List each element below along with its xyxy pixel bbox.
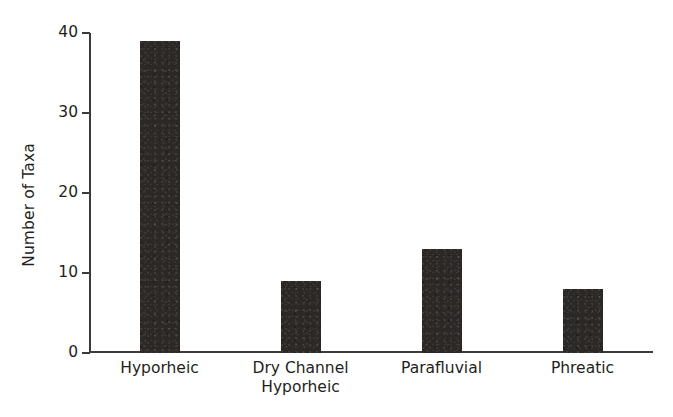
y-axis-tick-mark xyxy=(82,352,90,354)
bar[interactable] xyxy=(563,289,603,353)
y-axis-tick-mark xyxy=(82,272,90,274)
plot-area xyxy=(89,33,653,353)
x-axis-category-label: Hyporheic xyxy=(89,359,230,378)
y-axis-tick-label-group: 403020100 xyxy=(0,0,78,417)
y-axis-tick-mark xyxy=(82,112,90,114)
y-axis-tick-label: 0 xyxy=(4,344,78,360)
x-axis-category-label: Parafluvial xyxy=(371,359,512,378)
y-axis-tick-label: 20 xyxy=(4,184,78,200)
y-axis-tick-label: 10 xyxy=(4,264,78,280)
bar[interactable] xyxy=(281,281,321,353)
y-axis-tick-mark xyxy=(82,192,90,194)
bar-chart-figure: Number of Taxa 403020100 HyporheicDry Ch… xyxy=(0,0,673,417)
bar[interactable] xyxy=(422,249,462,353)
bar[interactable] xyxy=(140,41,180,353)
x-axis-category-label: Phreatic xyxy=(512,359,653,378)
x-axis-category-label: Dry Channel Hyporheic xyxy=(230,359,371,397)
y-axis-tick-label: 40 xyxy=(4,24,78,40)
y-axis-tick-mark xyxy=(82,32,90,34)
y-axis-tick-label: 30 xyxy=(4,104,78,120)
